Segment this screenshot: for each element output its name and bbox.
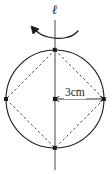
vertex-dot-top — [53, 48, 57, 52]
figure-canvas — [0, 0, 112, 174]
vertex-dot-left — [4, 97, 8, 101]
rotation-arrow-curve — [34, 29, 78, 38]
radius-dimension-label: 3cm — [64, 87, 86, 99]
vertex-dot-bottom — [53, 146, 57, 150]
circle-center-dot — [53, 97, 57, 101]
axis-label-ell: ℓ — [52, 3, 57, 16]
geometry-figure: ℓ 3cm — [0, 0, 112, 174]
